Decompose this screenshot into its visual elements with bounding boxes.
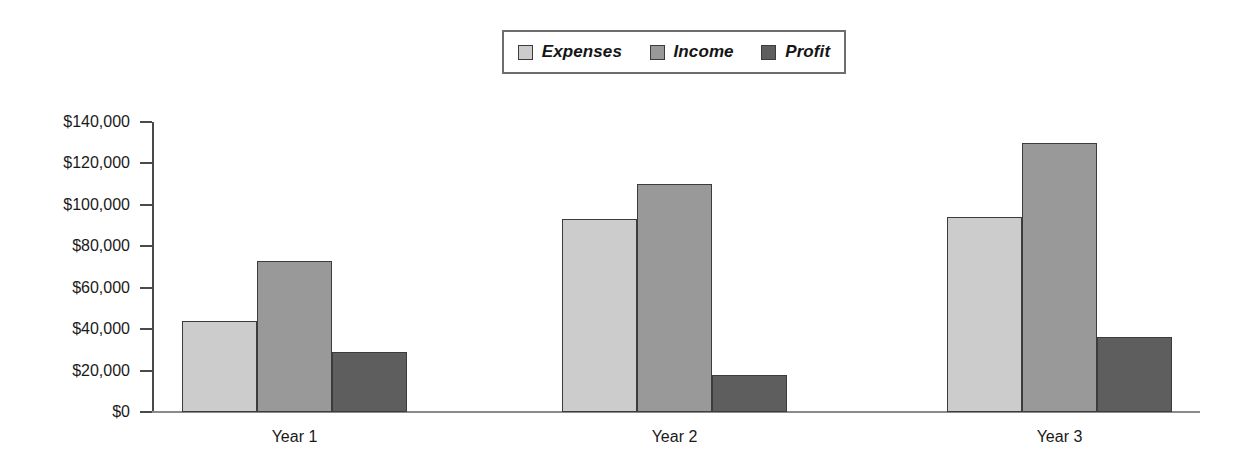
bar-expenses-year-1	[182, 321, 257, 412]
x-axis-category-label: Year 2	[652, 428, 698, 446]
y-axis-tick-label: $100,000	[20, 196, 130, 214]
y-axis-tick-label: $60,000	[20, 279, 130, 297]
bar-expenses-year-2	[562, 219, 637, 412]
y-axis-tick-label: $80,000	[20, 237, 130, 255]
y-axis-tick-label: $40,000	[20, 320, 130, 338]
bar-profit-year-3	[1097, 337, 1172, 412]
y-axis-tick	[140, 287, 152, 289]
x-axis-category-label: Year 1	[272, 428, 318, 446]
y-axis-tick	[140, 370, 152, 372]
bar-income-year-1	[257, 261, 332, 412]
y-axis-tick	[140, 121, 152, 123]
x-axis-category-label: Year 3	[1037, 428, 1083, 446]
y-axis-tick-label: $0	[20, 403, 130, 421]
y-axis-tick	[140, 245, 152, 247]
y-axis-tick	[140, 411, 152, 413]
y-axis-line	[152, 122, 154, 413]
bar-income-year-2	[637, 184, 712, 412]
y-axis-tick-label: $140,000	[20, 113, 130, 131]
bar-expenses-year-3	[947, 217, 1022, 412]
bar-profit-year-2	[712, 375, 787, 412]
bar-income-year-3	[1022, 143, 1097, 412]
y-axis-tick-label: $120,000	[20, 154, 130, 172]
y-axis-tick	[140, 204, 152, 206]
y-axis-tick	[140, 328, 152, 330]
bar-profit-year-1	[332, 352, 407, 412]
plot-area: $0$20,000$40,000$60,000$80,000$100,000$1…	[0, 0, 1257, 471]
bar-chart: Expenses Income Profit $0$20,000$40,000$…	[0, 0, 1257, 471]
y-axis-tick-label: $20,000	[20, 362, 130, 380]
y-axis-tick	[140, 162, 152, 164]
